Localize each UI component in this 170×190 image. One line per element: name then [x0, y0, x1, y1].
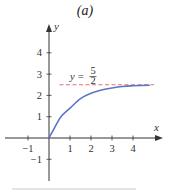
figure: (a) −11234−11234 x y y = 5 2	[0, 0, 170, 190]
axes	[5, 24, 163, 181]
y-tick-label: 4	[37, 47, 43, 58]
y-tick-label: 3	[37, 69, 42, 80]
x-tick-label: 1	[67, 143, 72, 154]
svg-text:y =: y =	[69, 71, 84, 82]
y-tick-label: 2	[37, 90, 42, 101]
asymptote-label-denominator: 2	[90, 75, 95, 86]
asymptote-label: y = 5 2	[69, 65, 97, 86]
y-axis-arrow-icon	[46, 24, 52, 32]
asymptote-label-prefix: y =	[69, 71, 84, 82]
x-tick-label: −1	[22, 143, 33, 154]
x-tick-label: 3	[109, 143, 114, 154]
y-tick-label: −1	[31, 154, 42, 165]
x-tick-label: 2	[88, 143, 93, 154]
figure-title: (a)	[77, 3, 94, 19]
x-tick-label: 4	[130, 143, 136, 154]
y-tick-label: 1	[37, 111, 42, 122]
series-line-curve	[49, 85, 150, 138]
series	[49, 85, 150, 138]
y-axis-label: y	[53, 20, 59, 32]
ticks: −11234−11234	[22, 47, 136, 165]
x-axis-label: x	[153, 121, 159, 133]
x-axis-arrow-icon	[155, 135, 163, 141]
